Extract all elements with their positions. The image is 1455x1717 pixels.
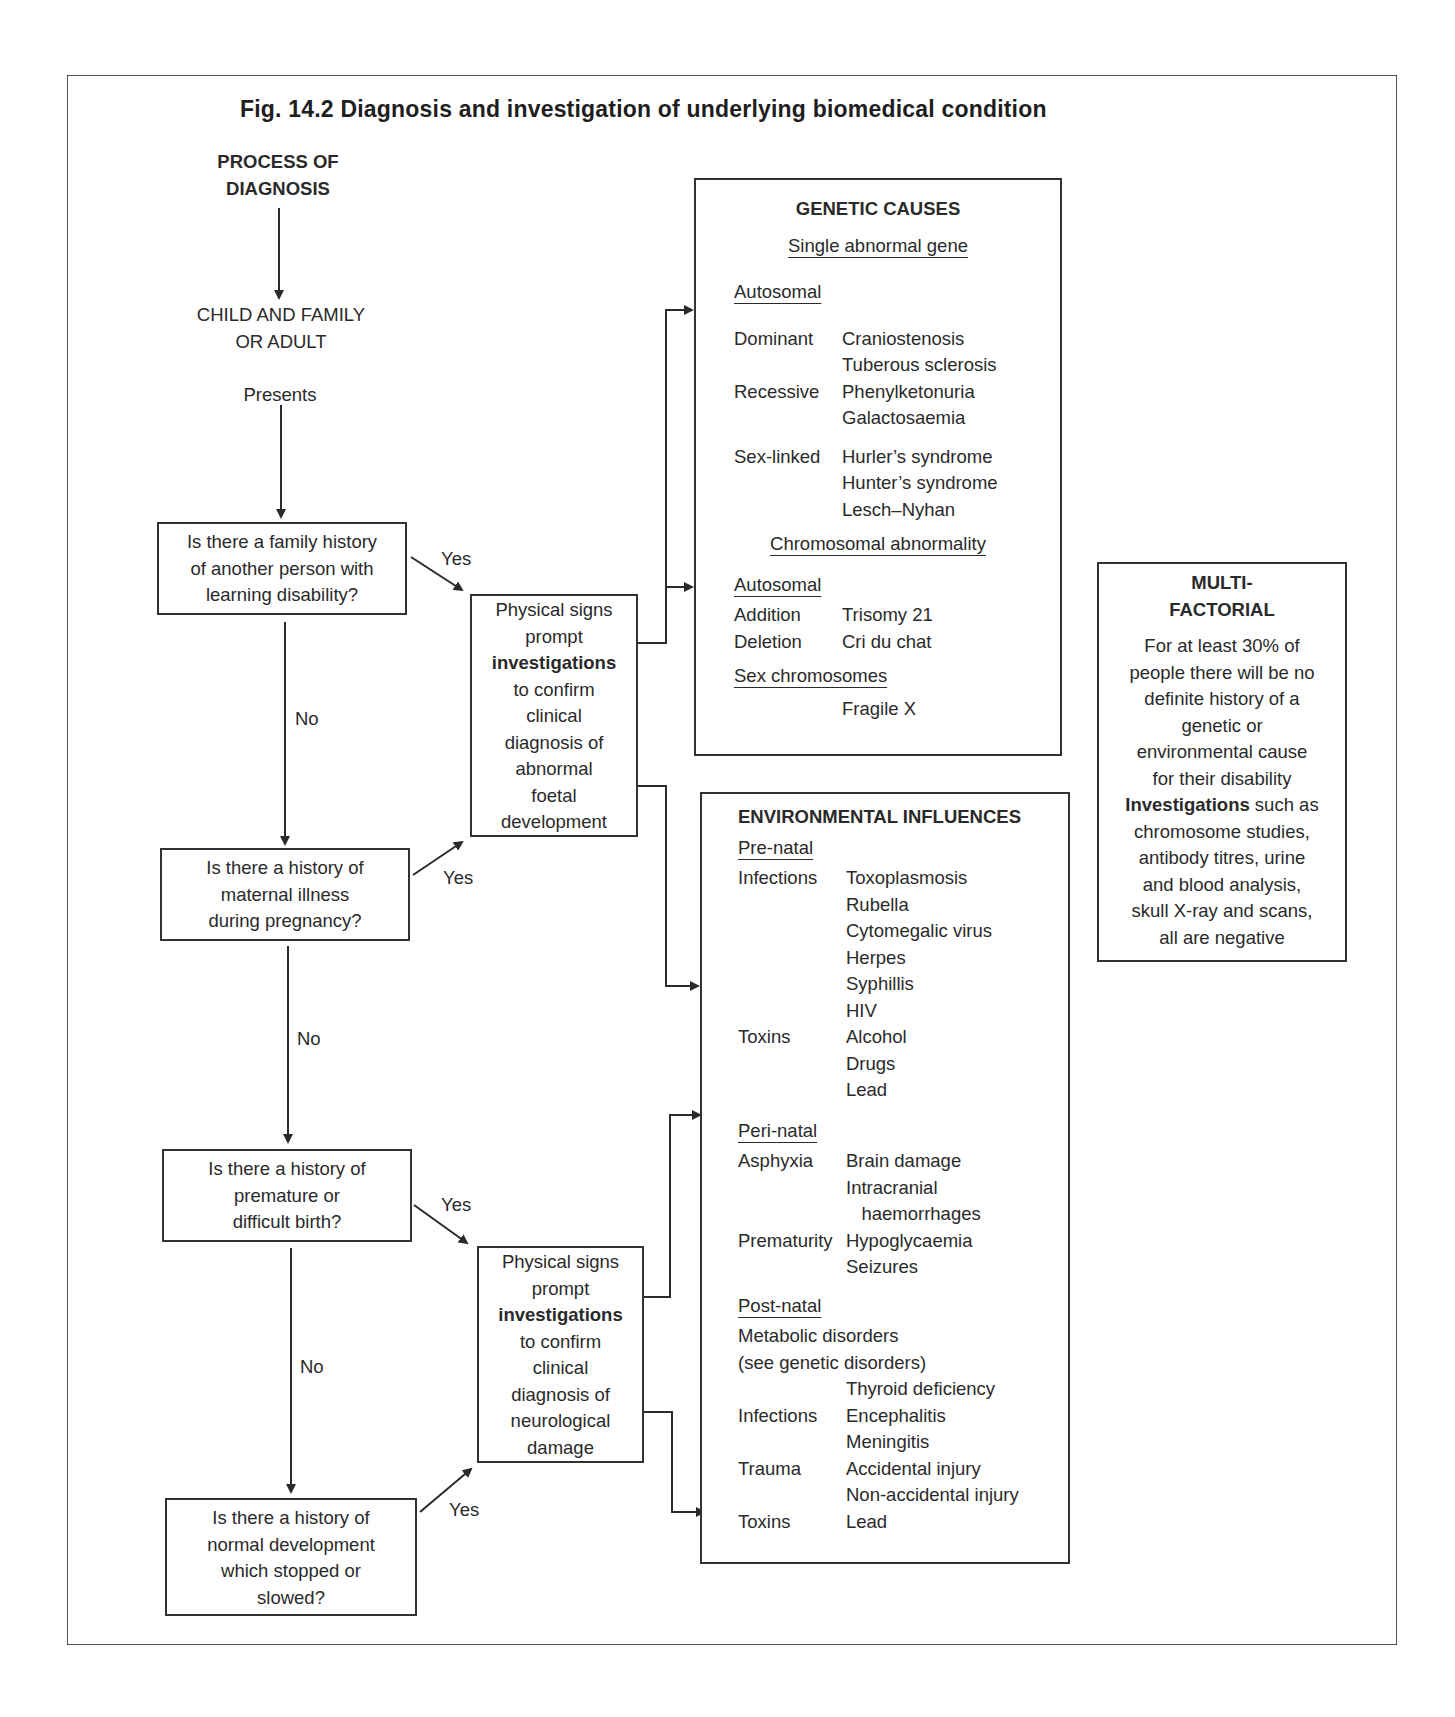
- env-row: Cytomegalic virus: [738, 918, 1068, 945]
- row-value: Trisomy 21: [842, 602, 1060, 629]
- env-row: Intracranial: [738, 1175, 1068, 1202]
- env-row: AsphyxiaBrain damage: [738, 1148, 1068, 1175]
- investigation-line: neurological: [479, 1408, 642, 1435]
- multifactorial-title: FACTORIAL: [1099, 597, 1345, 624]
- investigation-line: foetal: [472, 783, 636, 810]
- env-row: Herpes: [738, 945, 1068, 972]
- row-key: Toxins: [738, 1509, 846, 1536]
- investigations-rest: such as: [1250, 794, 1319, 815]
- multifactorial-investigations: Investigations such as: [1099, 792, 1345, 819]
- multifactorial-text: all are negative: [1099, 925, 1345, 952]
- chrom-autosomal-heading: Autosomal: [734, 574, 821, 595]
- question-family-history: Is there a family history of another per…: [157, 522, 407, 615]
- row-value: Toxoplasmosis: [846, 865, 1068, 892]
- row-value: Hurler’s syndrome: [842, 444, 1060, 471]
- row-key: [738, 1482, 846, 1509]
- investigation-line: diagnosis of: [472, 730, 636, 757]
- start-label: PROCESS OF DIAGNOSIS: [198, 149, 358, 202]
- row-key: [734, 497, 842, 524]
- investigation-line: Physical signs: [472, 597, 636, 624]
- investigation-line: abnormal: [472, 756, 636, 783]
- row-value: Seizures: [846, 1254, 1068, 1281]
- multifactorial-text: definite history of a: [1099, 686, 1345, 713]
- row-value: Syphillis: [846, 971, 1068, 998]
- yes-label: Yes: [443, 867, 473, 889]
- row-value: Non-accidental injury: [846, 1482, 1068, 1509]
- env-row: HIV: [738, 998, 1068, 1025]
- row-key: Toxins: [738, 1024, 846, 1051]
- env-row: Meningitis: [738, 1429, 1068, 1456]
- row-key: Deletion: [734, 629, 842, 656]
- row-key: Trauma: [738, 1456, 846, 1483]
- row-key: [738, 945, 846, 972]
- row-value: HIV: [846, 998, 1068, 1025]
- row-value: Phenylketonuria: [842, 379, 1060, 406]
- presenter-line: OR ADULT: [170, 329, 392, 356]
- no-label: No: [297, 1028, 321, 1050]
- row-key: [738, 918, 846, 945]
- yes-label: Yes: [441, 1194, 471, 1216]
- row-key: [738, 1376, 846, 1403]
- row-key: Dominant: [734, 326, 842, 353]
- genetic-row: RecessivePhenylketonuria: [734, 379, 1060, 406]
- question-line: Is there a family history: [159, 529, 405, 556]
- multifactorial-text: chromosome studies,: [1099, 819, 1345, 846]
- row-key: [738, 1429, 846, 1456]
- row-key: [738, 1051, 846, 1078]
- prenatal-heading: Pre-natal: [738, 837, 813, 858]
- row-key: [738, 1201, 846, 1228]
- investigation-keyword: investigations: [479, 1302, 642, 1329]
- env-row: Thyroid deficiency: [738, 1376, 1068, 1403]
- row-key: Recessive: [734, 379, 842, 406]
- row-key: [738, 1254, 846, 1281]
- start-label-line: DIAGNOSIS: [198, 176, 358, 203]
- row-key: Addition: [734, 602, 842, 629]
- investigation-keyword: investigations: [472, 650, 636, 677]
- row-value: Accidental injury: [846, 1456, 1068, 1483]
- row-value: Meningitis: [846, 1429, 1068, 1456]
- multifactorial-text: antibody titres, urine: [1099, 845, 1345, 872]
- start-label-line: PROCESS OF: [198, 149, 358, 176]
- multifactorial-text: For at least 30% of: [1099, 633, 1345, 660]
- investigation-line: prompt: [472, 624, 636, 651]
- no-label: No: [295, 708, 319, 730]
- genetic-causes-panel: GENETIC CAUSES Single abnormal gene Auto…: [694, 178, 1062, 756]
- question-premature-birth: Is there a history of premature or diffi…: [162, 1149, 412, 1242]
- env-row: haemorrhages: [738, 1201, 1068, 1228]
- investigation-line: clinical: [479, 1355, 642, 1382]
- question-line: learning disability?: [159, 582, 405, 609]
- row-value: Lesch–Nyhan: [842, 497, 1060, 524]
- row-value: Hypoglycaemia: [846, 1228, 1068, 1255]
- perinatal-heading: Peri-natal: [738, 1120, 817, 1141]
- investigation-box-neurological: Physical signs prompt investigations to …: [477, 1246, 644, 1463]
- genetic-title: GENETIC CAUSES: [696, 196, 1060, 223]
- row-value: Lead: [846, 1509, 1068, 1536]
- question-line: Is there a history of: [167, 1505, 415, 1532]
- row-key: [738, 1077, 846, 1104]
- yes-label: Yes: [441, 548, 471, 570]
- genetic-row: DominantCraniostenosis: [734, 326, 1060, 353]
- postnatal-note: (see genetic disorders): [738, 1350, 1068, 1377]
- row-key: Sex-linked: [734, 444, 842, 471]
- multifactorial-title: MULTI-: [1099, 570, 1345, 597]
- investigation-line: to confirm: [479, 1329, 642, 1356]
- row-key: [738, 971, 846, 998]
- env-row: InfectionsEncephalitis: [738, 1403, 1068, 1430]
- row-key: [738, 998, 846, 1025]
- row-value: Cri du chat: [842, 629, 1060, 656]
- multifactorial-text: people there will be no: [1099, 660, 1345, 687]
- question-line: of another person with: [159, 556, 405, 583]
- row-value: Cytomegalic virus: [846, 918, 1068, 945]
- question-line: premature or: [164, 1183, 410, 1210]
- investigation-line: damage: [479, 1435, 642, 1462]
- yes-label: Yes: [449, 1499, 479, 1521]
- env-row: ToxinsAlcohol: [738, 1024, 1068, 1051]
- investigations-keyword: Investigations: [1125, 794, 1249, 815]
- question-line: difficult birth?: [164, 1209, 410, 1236]
- env-row: Syphillis: [738, 971, 1068, 998]
- question-line: during pregnancy?: [162, 908, 408, 935]
- genetic-row: Sex-linkedHurler’s syndrome: [734, 444, 1060, 471]
- row-key: Asphyxia: [738, 1148, 846, 1175]
- investigation-line: to confirm: [472, 677, 636, 704]
- environmental-influences-panel: ENVIRONMENTAL INFLUENCES Pre-natal Infec…: [700, 792, 1070, 1564]
